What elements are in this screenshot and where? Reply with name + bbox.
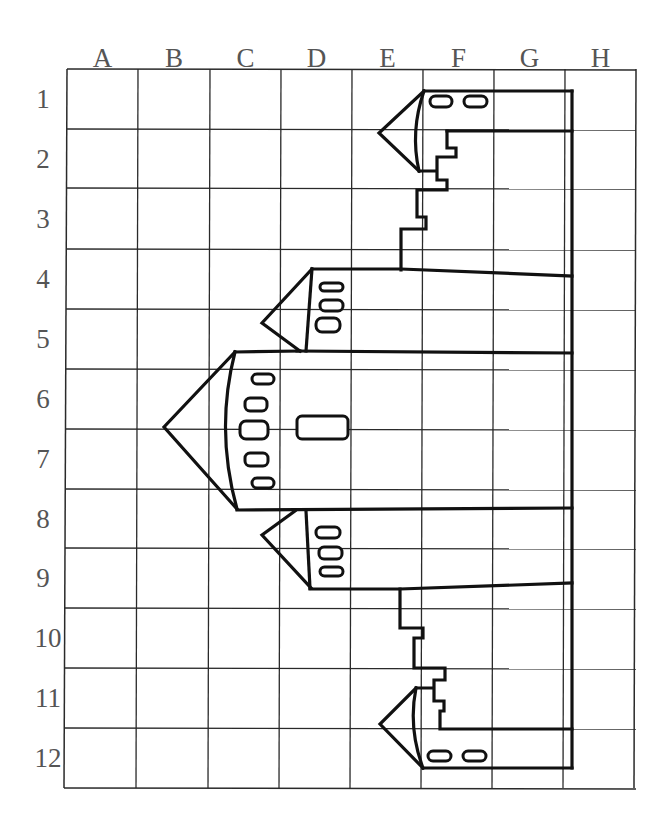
column-label-e: E <box>379 43 396 73</box>
bottom-tower-window <box>428 751 451 761</box>
grid-row-line <box>65 668 637 669</box>
column-label-b: B <box>165 43 183 73</box>
top-tower-window <box>430 96 452 107</box>
lower-middle-tower-inner-line <box>306 511 310 588</box>
main-tower-window <box>252 478 274 488</box>
main-tower-top-edge <box>297 351 572 353</box>
grid-column-line <box>563 69 565 788</box>
lower-middle-tower-cone <box>262 511 311 588</box>
row-label-3: 3 <box>36 204 50 234</box>
upper-middle-tower-window <box>316 318 340 332</box>
row-label-1: 1 <box>36 84 50 114</box>
grid-row-line <box>65 489 636 490</box>
upper-middle-tower-window <box>320 300 343 311</box>
main-tower-roof-top <box>235 351 300 352</box>
main-tower-window <box>252 374 274 384</box>
grid-column-line <box>634 69 636 788</box>
lower-middle-tower-window <box>316 527 340 538</box>
row-label-6: 6 <box>36 384 50 414</box>
column-label-g: G <box>520 43 540 73</box>
grid-row-line <box>66 249 636 250</box>
column-label-h: H <box>591 43 611 73</box>
row-labels: 123456789101112 <box>35 84 62 773</box>
grid-row-line <box>64 788 636 789</box>
bottom-tower-window <box>463 751 486 761</box>
main-tower-window <box>240 421 268 439</box>
grid-drawing-canvas: ABCDEFGH 123456789101112 <box>0 0 668 827</box>
grid-column-line <box>208 69 210 788</box>
column-labels: ABCDEFGH <box>93 43 611 73</box>
grid-row-line <box>67 69 636 70</box>
row-label-8: 8 <box>36 504 50 534</box>
column-label-c: C <box>236 43 254 73</box>
lower-battlement-steps <box>400 589 572 729</box>
top-tower-window <box>464 96 487 107</box>
lower-middle-tower-bottom-edge <box>310 583 572 589</box>
upper-middle-tower-window <box>320 283 343 291</box>
main-tower-window <box>245 398 267 411</box>
row-label-5: 5 <box>36 324 50 354</box>
grid-row-line <box>65 608 636 609</box>
grid-row-line <box>66 369 636 370</box>
grid-lines <box>64 69 636 789</box>
column-label-d: D <box>307 43 327 73</box>
grid-row-line <box>66 309 636 310</box>
main-tower-window <box>245 453 268 466</box>
column-label-f: F <box>451 43 466 73</box>
lower-middle-tower-window <box>320 567 343 576</box>
grid-row-line <box>66 429 637 430</box>
row-label-11: 11 <box>35 683 61 713</box>
row-label-7: 7 <box>36 444 50 474</box>
bottom-tower <box>380 589 572 768</box>
row-label-4: 4 <box>36 264 50 294</box>
main-tower-curve <box>225 352 237 509</box>
grid-column-line <box>421 69 423 788</box>
grid-row-line <box>65 548 636 549</box>
grid-column-line <box>350 69 352 788</box>
grid-column-line <box>279 69 281 788</box>
grid-column-line <box>492 69 494 788</box>
main-tower <box>164 351 572 510</box>
row-label-10: 10 <box>35 623 62 653</box>
main-tower-door <box>297 416 348 439</box>
row-label-2: 2 <box>36 144 50 174</box>
top-tower <box>379 91 572 270</box>
lower-middle-tower <box>262 511 572 589</box>
main-tower-bottom-edge <box>237 508 572 510</box>
lower-middle-tower-window <box>319 547 342 559</box>
row-label-9: 9 <box>36 563 50 593</box>
row-label-12: 12 <box>35 743 62 773</box>
grid-row-line <box>67 188 637 189</box>
column-label-a: A <box>93 43 113 73</box>
